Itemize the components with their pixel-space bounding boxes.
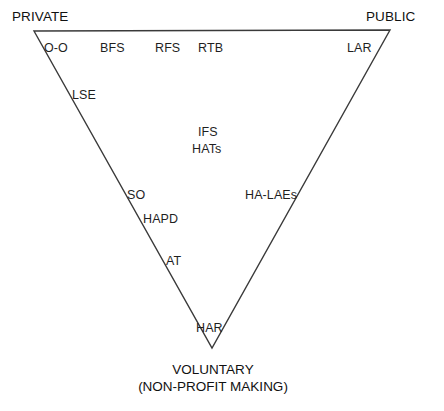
triangle-outline [0, 0, 444, 411]
item-label-rtb: RTB [198, 42, 223, 55]
item-label-ha-laes: HA-LAEs [245, 189, 297, 202]
item-label-hapd: HAPD [143, 213, 178, 226]
pole-label-voluntary-line1: VOLUNTARY [138, 362, 288, 377]
item-label-at: AT [166, 255, 181, 268]
pole-label-voluntary: VOLUNTARY (NON-PROFIT MAKING) [138, 362, 288, 394]
item-label-o-o: O-O [44, 42, 68, 55]
pole-label-public: PUBLIC [366, 10, 415, 24]
triangle-shape [34, 30, 390, 348]
item-label-har: HAR [196, 322, 223, 335]
item-label-bfs: BFS [100, 42, 125, 55]
item-label-ifs: IFS [198, 126, 218, 139]
item-label-lse: LSE [72, 89, 96, 102]
item-label-hats: HATs [192, 143, 221, 156]
item-label-so: SO [127, 189, 145, 202]
item-label-rfs: RFS [155, 42, 180, 55]
pole-label-voluntary-line2: (NON-PROFIT MAKING) [138, 379, 288, 394]
diagram-canvas: PRIVATE PUBLIC VOLUNTARY (NON-PROFIT MAK… [0, 0, 444, 411]
pole-label-private: PRIVATE [12, 10, 68, 24]
item-label-lar: LAR [347, 42, 372, 55]
